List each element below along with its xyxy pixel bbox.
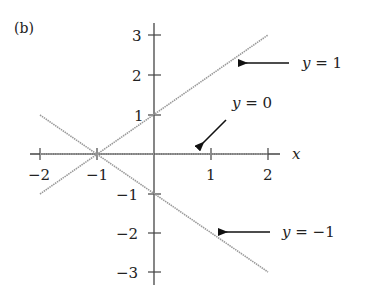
y-tick-label: 1 [134,107,144,125]
y-tick-label: 2 [132,67,142,85]
x-tick-label: 2 [263,166,273,184]
arrow-icon [203,120,226,143]
y-tick-label: −1 [116,186,138,204]
y-tick-label: −3 [116,264,138,282]
panel-label: (b) [14,20,34,36]
annotation-y-equals-minus-1: y = −1 [281,223,335,241]
x-axis-label: x [292,145,301,163]
y-tick-label: −2 [116,225,138,243]
x-tick-label: 1 [206,166,216,184]
annotation-y-equals-1: y = 1 [301,54,342,72]
annotation-y-equals-0: y = 0 [231,94,272,112]
y-tick-label: 3 [132,27,142,45]
chart-canvas: (b) −2 −1 1 2 x 3 2 1 −1 −2 −3 y = 1 y =… [0,0,376,303]
x-tick-label: −1 [86,166,108,184]
x-tick-label: −2 [28,166,50,184]
